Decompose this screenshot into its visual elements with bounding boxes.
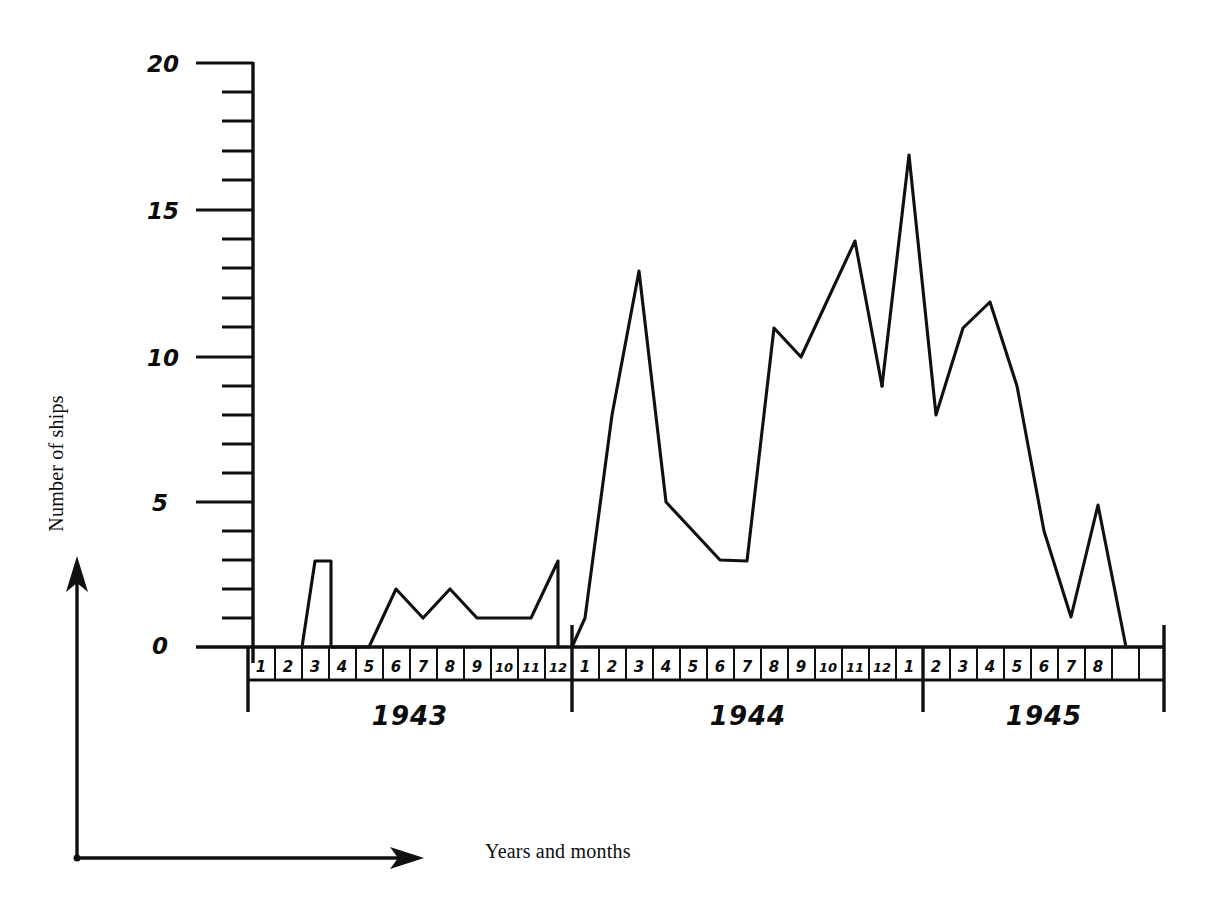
- chart-canvas: 0 5 10 15 20: [0, 0, 1227, 915]
- x-axis-title: Years and months: [485, 840, 631, 863]
- axis-arrow-diagram: [0, 0, 1227, 915]
- y-axis-title: Number of ships: [45, 364, 68, 564]
- origin-dot: [74, 855, 81, 862]
